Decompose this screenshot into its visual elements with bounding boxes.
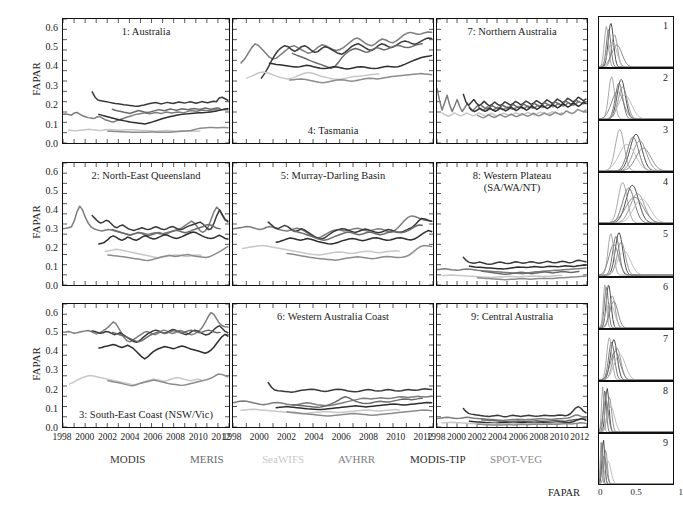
timeseries-panel-4: 4: Tasmania <box>232 18 434 144</box>
panel-plot-2 <box>63 163 229 285</box>
density-panel-number-5: 5 <box>663 228 668 239</box>
density-curve <box>599 134 673 171</box>
density-curve <box>599 443 673 484</box>
density-panel-number-4: 4 <box>663 176 668 187</box>
density-panel-5: 5 <box>598 224 674 276</box>
series-line-modis-tip <box>269 56 431 69</box>
timeseries-panel-5: 5: Murray-Darling Basin <box>232 162 434 286</box>
density-panel-number-6: 6 <box>663 281 668 292</box>
panel-plot-9 <box>437 304 587 427</box>
density-curve <box>599 198 673 224</box>
series-line-avhrr <box>63 109 228 122</box>
y-tick-label: 0.1 <box>30 261 58 272</box>
series-line-seawifs <box>70 376 201 385</box>
density-panel-6: 6 <box>598 277 674 329</box>
y-tick-label: 0.2 <box>30 99 58 110</box>
density-panel-number-1: 1 <box>663 20 668 31</box>
y-tick-label: 0.1 <box>30 403 58 414</box>
panel-plot-5 <box>233 163 433 285</box>
series-line-modis <box>261 38 431 78</box>
timeseries-panel-6: 6: Western Australia Coast <box>232 303 434 428</box>
density-plot-4 <box>599 173 673 223</box>
density-panel-3: 3 <box>598 120 674 172</box>
y-tick-label: 0.4 <box>30 204 58 215</box>
series-line-seawifs <box>242 246 399 255</box>
panel-plot-8 <box>437 163 587 285</box>
density-panel-8: 8 <box>598 381 674 433</box>
y-tick-label: 0.1 <box>30 119 58 130</box>
y-tick-label: 0.4 <box>30 60 58 71</box>
series-line-modis <box>463 407 586 417</box>
density-curve <box>599 27 673 68</box>
series-line-avhrr <box>63 206 228 235</box>
density-panel-9: 9 <box>598 433 674 485</box>
timeseries-panel-1: 1: Australia <box>62 18 230 144</box>
legend-item-meris: MERIS <box>190 453 224 465</box>
density-x-tick-label: 0.5 <box>627 487 645 497</box>
density-curve <box>599 442 673 484</box>
legend-item-modis: MODIS <box>110 453 145 465</box>
density-curve <box>599 183 673 223</box>
density-curve <box>599 137 673 171</box>
legend-item-spot-veg: SPOT-VEG <box>490 453 542 465</box>
y-tick-label: 0.2 <box>30 384 58 395</box>
x-tick-label: 2012 <box>564 432 596 442</box>
density-curve <box>599 237 673 275</box>
density-plot-7 <box>599 330 673 380</box>
density-panel-number-3: 3 <box>663 124 668 135</box>
panel-plot-6 <box>233 304 433 427</box>
legend-item-modis-tip: MODIS-TIP <box>410 453 466 465</box>
y-tick-label: 0.5 <box>30 185 58 196</box>
density-panel-7: 7 <box>598 329 674 381</box>
y-tick-label: 0.6 <box>30 22 58 33</box>
panel-plot-3 <box>63 304 229 427</box>
density-panel-2: 2 <box>598 68 674 120</box>
panel-plot-1 <box>63 19 229 143</box>
density-curve <box>599 92 673 120</box>
panel-plot-4 <box>233 19 433 143</box>
series-line-seawifs <box>247 72 379 79</box>
density-panel-4: 4 <box>598 172 674 224</box>
y-tick-label: 0.5 <box>30 326 58 337</box>
density-plot-2 <box>599 69 673 119</box>
timeseries-panel-8: 8: Western Plateau (SA/WA/NT) <box>436 162 588 286</box>
density-curve <box>599 130 673 171</box>
density-panel-number-8: 8 <box>663 385 668 396</box>
density-plot-9 <box>599 434 673 484</box>
series-line-avhrr <box>233 216 432 238</box>
y-tick-label: 0.3 <box>30 80 58 91</box>
density-curve <box>599 456 673 484</box>
y-tick-label: 0.0 <box>30 138 58 149</box>
y-tick-label: 0.6 <box>30 307 58 318</box>
timeseries-panel-7: 7: Northern Australia <box>436 18 588 144</box>
panel-plot-7 <box>437 19 587 143</box>
density-curve <box>599 30 673 67</box>
series-line-modis <box>268 383 432 393</box>
series-line-modis-tip <box>99 334 228 359</box>
density-curve <box>599 303 673 328</box>
density-curve <box>599 461 673 484</box>
timeseries-panel-9: 9: Central Australia <box>436 303 588 428</box>
density-curve <box>599 242 673 275</box>
y-tick-label: 0.4 <box>30 345 58 356</box>
density-axis-label: FAPAR <box>548 487 580 498</box>
timeseries-panel-3: 3: South-East Coast (NSW/Vic) <box>62 303 230 428</box>
series-line-modis <box>92 326 228 342</box>
series-line-modis <box>92 92 228 107</box>
density-curve <box>599 234 673 275</box>
density-panel-1: 1 <box>598 16 674 68</box>
density-plot-1 <box>599 17 673 67</box>
density-x-tick-label: 1 <box>665 487 683 497</box>
density-plot-6 <box>599 278 673 328</box>
series-line-seawifs <box>442 275 562 277</box>
series-line-spot-veg <box>108 247 228 261</box>
legend-item-avhrr: AVHRR <box>338 453 375 465</box>
y-tick-label: 0.6 <box>30 166 58 177</box>
density-curve <box>599 87 673 119</box>
series-line-modis <box>463 257 586 264</box>
density-x-tick-label: 0 <box>598 487 616 497</box>
timeseries-panel-2: 2: North-East Queensland <box>62 162 230 286</box>
legend-item-seawifs: SeaWIFS <box>262 453 304 465</box>
density-panel-number-7: 7 <box>663 333 668 344</box>
